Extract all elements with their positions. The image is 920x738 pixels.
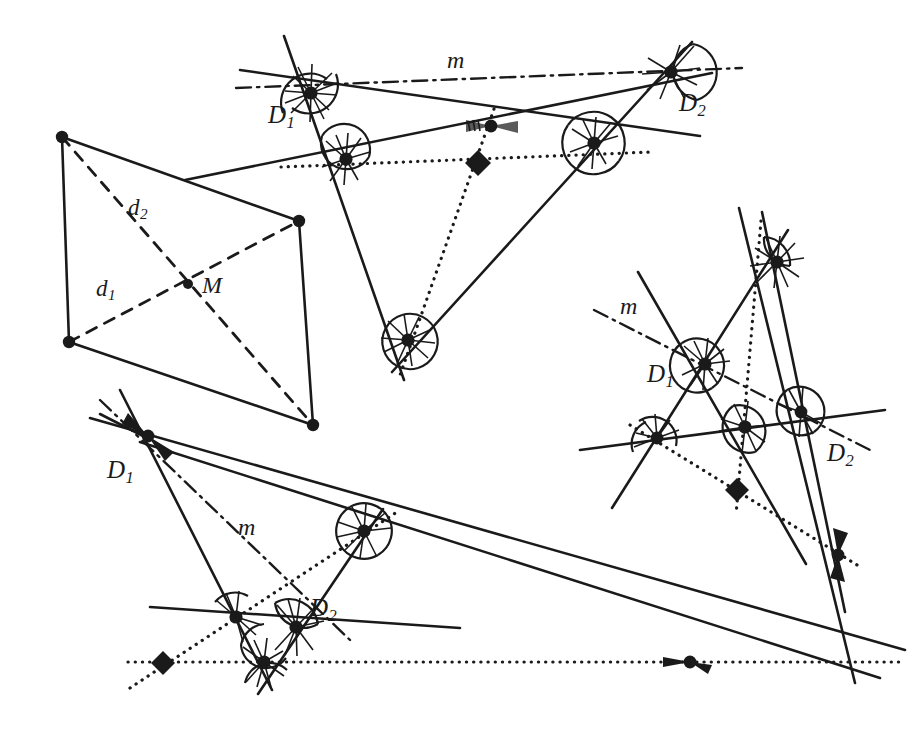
- right-angle-marker-D1: [670, 338, 730, 393]
- bottom-angle-marker-upper-mid: [336, 503, 392, 559]
- bottom-angle-marker-D1: [122, 413, 174, 461]
- quad-side-left: [62, 137, 69, 342]
- quad-side-top: [62, 137, 299, 221]
- label-D1-bottom: D1: [107, 457, 134, 486]
- label-D2-bottom: D2: [310, 595, 337, 624]
- right-bottom-wedges: [830, 528, 848, 582]
- label-d2: d2: [128, 196, 148, 221]
- label-m-right: m: [620, 294, 637, 318]
- top-diamond-marker: [465, 150, 491, 176]
- label-D1-right: D1: [647, 361, 674, 390]
- panel-top-center: [185, 36, 742, 380]
- top-crossing-wedges: [466, 120, 518, 133]
- right-diamond-marker: [725, 478, 749, 502]
- label-D2-right: D2: [827, 440, 854, 469]
- bottom-line-long-lower: [140, 442, 880, 678]
- quad-vertex-d: [63, 336, 75, 348]
- label-M: M: [202, 273, 222, 297]
- label-D2-top: D2: [679, 90, 706, 119]
- panel-bottom: [90, 390, 905, 694]
- geometry-figure-page: .s { stroke:#1a1a1a; fill:none; stroke-l…: [0, 0, 920, 738]
- label-d1: d1: [96, 277, 116, 302]
- geometry-figure-canvas: .s { stroke:#1a1a1a; fill:none; stroke-l…: [0, 0, 920, 738]
- quad-vertex-c: [307, 419, 319, 431]
- quad-midpoint-M: [183, 279, 193, 289]
- right-line-diag-down: [638, 272, 806, 564]
- right-angle-marker-left: [632, 414, 679, 452]
- top-angle-marker-left-mid: [321, 124, 370, 185]
- top-dotted-horizontal: [281, 152, 651, 167]
- bottom-right-convergence: [663, 656, 712, 674]
- label-D1-top: D1: [268, 102, 295, 131]
- quad-side-right: [299, 221, 313, 425]
- bottom-line-long-upper: [90, 418, 905, 650]
- quad-vertex-a: [56, 131, 68, 143]
- label-m-top: m: [447, 48, 464, 72]
- label-m-bottom: m: [238, 515, 255, 539]
- bottom-angle-marker-left: [215, 591, 264, 645]
- top-line-D2-down: [392, 42, 692, 372]
- quad-vertex-b: [293, 215, 305, 227]
